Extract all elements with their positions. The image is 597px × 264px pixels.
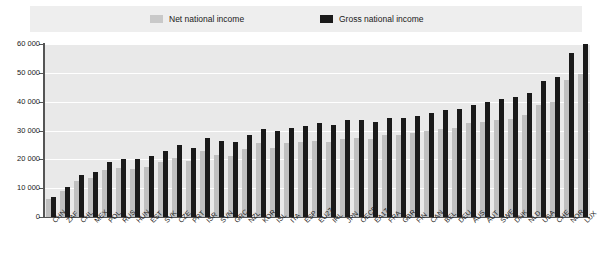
legend-label-gross: Gross national income [339, 14, 424, 24]
bar-gross-national-income [443, 110, 448, 217]
y-axis-label: 0 [0, 213, 40, 221]
bar-group [226, 44, 240, 217]
bar-gross-national-income [93, 172, 98, 217]
bar-group [366, 44, 380, 217]
bar-group [352, 44, 366, 217]
bar-net-national-income [270, 148, 275, 217]
bar-group [450, 44, 464, 217]
bar-net-national-income [200, 151, 205, 217]
bar-net-national-income [522, 115, 527, 217]
bar-group [114, 44, 128, 217]
bar-group [212, 44, 226, 217]
bar-gross-national-income [401, 118, 406, 217]
y-axis-label: 10 000 [0, 184, 40, 192]
bar-net-national-income [396, 135, 401, 217]
bar-group [142, 44, 156, 217]
bar-gross-national-income [205, 138, 210, 217]
bar-gross-national-income [471, 105, 476, 217]
bar-gross-national-income [289, 128, 294, 217]
bar-net-national-income [382, 135, 387, 217]
bar-gross-national-income [261, 129, 266, 217]
bar-net-national-income [536, 105, 541, 217]
bar-net-national-income [466, 123, 471, 217]
bar-gross-national-income [247, 135, 252, 217]
bar-net-national-income [494, 120, 499, 217]
legend-entry-net-national-income: Net national income [150, 14, 244, 24]
bar-gross-national-income [191, 148, 196, 217]
bars-layer [44, 44, 590, 217]
bar-gross-national-income [499, 99, 504, 217]
bar-net-national-income [242, 149, 247, 217]
bar-group [240, 44, 254, 217]
bar-group [520, 44, 534, 217]
legend-swatch-gross-icon [320, 15, 333, 23]
bar-group [254, 44, 268, 217]
bar-net-national-income [480, 122, 485, 217]
bar-gross-national-income [345, 120, 350, 217]
legend-swatch-net-icon [150, 15, 163, 23]
bar-group [394, 44, 408, 217]
bar-gross-national-income [275, 131, 280, 218]
bar-gross-national-income [79, 175, 84, 217]
bar-group [100, 44, 114, 217]
legend-entry-gross-national-income: Gross national income [320, 14, 424, 24]
bar-gross-national-income [457, 109, 462, 217]
bar-net-national-income [340, 139, 345, 217]
y-axis-label: 50 000 [0, 69, 40, 77]
bar-net-national-income [424, 131, 429, 218]
chart-container: Net national income Gross national incom… [0, 0, 597, 264]
bar-gross-national-income [121, 159, 126, 217]
bar-net-national-income [46, 199, 51, 217]
bar-group [562, 44, 576, 217]
bar-net-national-income [508, 119, 513, 217]
bar-group [422, 44, 436, 217]
y-axis-labels: 60 00050 00040 00030 00020 00010 0000 [0, 44, 40, 217]
bar-gross-national-income [303, 126, 308, 217]
bar-net-national-income [452, 128, 457, 217]
bar-group [548, 44, 562, 217]
bar-group [464, 44, 478, 217]
bar-gross-national-income [149, 156, 154, 217]
bar-gross-national-income [135, 159, 140, 217]
bar-gross-national-income [233, 142, 238, 217]
bar-group [58, 44, 72, 217]
bar-net-national-income [214, 155, 219, 217]
bar-group [296, 44, 310, 217]
bar-net-national-income [550, 102, 555, 217]
bar-gross-national-income [219, 141, 224, 217]
bar-group [86, 44, 100, 217]
legend-label-net: Net national income [169, 14, 244, 24]
y-axis-label: 30 000 [0, 127, 40, 135]
bar-gross-national-income [583, 44, 588, 217]
bar-net-national-income [312, 141, 317, 217]
bar-group [156, 44, 170, 217]
bar-group [338, 44, 352, 217]
bar-gross-national-income [387, 118, 392, 217]
bar-net-national-income [578, 74, 583, 217]
bar-group [128, 44, 142, 217]
bar-group [506, 44, 520, 217]
bar-group [184, 44, 198, 217]
bar-gross-national-income [513, 97, 518, 217]
bar-gross-national-income [555, 77, 560, 217]
bar-gross-national-income [163, 151, 168, 217]
bar-gross-national-income [373, 122, 378, 217]
chart-legend: Net national income Gross national incom… [30, 6, 582, 32]
bar-group [72, 44, 86, 217]
bar-gross-national-income [107, 162, 112, 217]
bar-gross-national-income [415, 116, 420, 217]
bar-gross-national-income [541, 81, 546, 217]
bar-group [310, 44, 324, 217]
bar-group [436, 44, 450, 217]
bar-group [380, 44, 394, 217]
y-axis-label: 40 000 [0, 98, 40, 106]
bar-gross-national-income [359, 120, 364, 217]
bar-gross-national-income [331, 125, 336, 217]
bar-gross-national-income [527, 93, 532, 217]
bar-gross-national-income [429, 113, 434, 217]
bar-group [268, 44, 282, 217]
bar-net-national-income [564, 80, 569, 217]
bar-net-national-income [298, 142, 303, 217]
bar-gross-national-income [485, 102, 490, 217]
bar-gross-national-income [317, 123, 322, 217]
